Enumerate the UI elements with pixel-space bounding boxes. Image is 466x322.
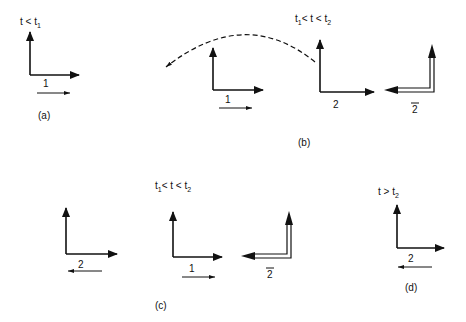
vector-label-1: 1 xyxy=(189,263,195,274)
vector-label-1: 1 xyxy=(43,78,49,89)
panel-d: t > t2 2 (d) xyxy=(378,186,444,293)
axis-frame-c3-double xyxy=(241,211,293,260)
caption-c: (c) xyxy=(155,300,167,311)
vector-label-2: 2 xyxy=(408,253,414,264)
axis-frame-c1 xyxy=(66,208,117,254)
diagram-svg: t < t1 1 (a) t1< t < t2 1 2 2 xyxy=(0,0,466,322)
axis-frame-c2 xyxy=(173,212,222,257)
panel-b: t1< t < t2 1 2 2 (b) xyxy=(166,13,436,148)
vector-label-2: 2 xyxy=(333,99,339,110)
caption-a: (a) xyxy=(38,110,50,121)
axis-frame-b1 xyxy=(213,48,263,90)
time-label-b: t1< t < t2 xyxy=(295,13,331,26)
axis-frame-d1 xyxy=(397,205,444,248)
vector-label-2-bar: 2 xyxy=(267,269,273,280)
caption-d: (d) xyxy=(405,282,417,293)
axis-frame-b3-double xyxy=(384,44,436,94)
axis-frame-a1 xyxy=(30,32,79,75)
diagram-canvas: t < t1 1 (a) t1< t < t2 1 2 2 xyxy=(0,0,466,322)
time-label-c: t1< t < t2 xyxy=(155,180,191,193)
vector-label-2-bar: 2 xyxy=(412,104,418,115)
caption-b: (b) xyxy=(298,137,310,148)
vector-label-1: 1 xyxy=(225,94,231,105)
time-label-a: t < t1 xyxy=(20,16,41,29)
dashed-arc-arrow-icon xyxy=(166,35,315,67)
axis-frame-b2 xyxy=(320,40,374,92)
time-label-d: t > t2 xyxy=(378,186,399,199)
panel-a: t < t1 1 (a) xyxy=(20,16,79,121)
vector-label-2: 2 xyxy=(78,259,84,270)
panel-c: t1< t < t2 2 1 2 (c) xyxy=(66,180,293,311)
